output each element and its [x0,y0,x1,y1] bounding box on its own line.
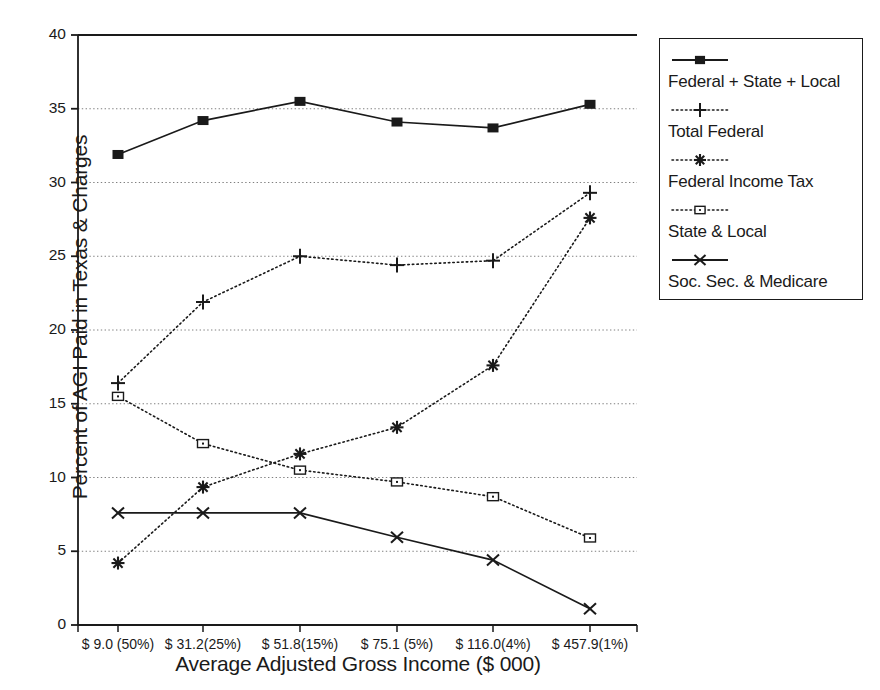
y-tick-label: 10 [22,468,66,486]
y-tick-label: 0 [22,615,66,633]
legend-entry-2[interactable]: Federal Income Tax [668,149,858,193]
legend-marker-open-square-icon [668,199,858,221]
x-tick-label: $ 51.8(15%) [262,636,338,652]
x-axis-title: Average Adjusted Gross Income ($ 000) [78,652,638,676]
x-tick-label: $ 116.0(4%) [455,636,530,652]
legend-label: Soc. Sec. & Medicare [668,271,858,293]
x-tick-label: $ 9.0 (50%) [82,636,154,652]
marker-open-square [585,534,596,542]
marker-open-square [695,206,705,213]
marker-open-square [488,493,499,501]
axis-ticks [71,35,637,632]
chart-figure: 0510152025303540 $ 9.0 (50%)$ 31.2(25%)$… [0,0,880,690]
marker-asterisk [694,154,706,166]
x-tick-label: $ 457.9(1%) [552,636,628,652]
series-1 [111,185,597,390]
marker-filled-square [113,150,124,159]
x-tick-label: $ 31.2(25%) [165,636,241,652]
y-axis-title: Percent of AGI Paid in Texas & Charges [68,37,92,597]
marker-plus [196,294,210,309]
y-tick-label: 40 [22,25,66,43]
marker-plus [293,249,307,264]
legend-marker-filled-square-icon [668,49,858,71]
marker-open-square [392,478,403,486]
marker-plus [111,376,125,391]
data-series-layer [111,97,597,614]
marker-plus [486,253,500,268]
legend-label: Federal + State + Local [668,71,858,93]
legend-entry-3[interactable]: State & Local [668,199,858,243]
y-tick-label: 30 [22,173,66,191]
marker-filled-square [695,56,705,64]
marker-asterisk [294,447,307,460]
legend-label: State & Local [668,221,858,243]
y-tick-label: 5 [22,541,66,559]
marker-cross-x [391,532,403,543]
marker-filled-square [488,123,499,132]
marker-filled-square [198,116,209,125]
marker-asterisk [197,481,210,494]
gridlines-group [78,109,637,552]
marker-asterisk [391,421,404,434]
series-4 [112,507,596,614]
legend-label: Federal Income Tax [668,171,858,193]
marker-filled-square [295,97,306,106]
series-0 [113,97,596,159]
y-tick-label: 25 [22,246,66,264]
marker-open-square [198,440,209,448]
marker-asterisk [584,211,597,224]
marker-asterisk [112,557,125,570]
legend-marker-plus-icon [668,99,858,121]
marker-cross-x [584,603,596,614]
marker-plus [694,103,707,117]
marker-open-square [113,392,124,400]
x-tick-label: $ 75.1 (5%) [361,636,433,652]
series-2 [112,211,597,569]
chart-legend: Federal + State + LocalTotal FederalFede… [659,38,863,300]
marker-filled-square [585,100,596,109]
marker-filled-square [392,118,403,127]
y-tick-label: 15 [22,394,66,412]
marker-open-square [295,466,306,474]
marker-plus [390,258,404,273]
legend-marker-asterisk-icon [668,149,858,171]
legend-label: Total Federal [668,121,858,143]
marker-plus [583,185,597,200]
legend-entry-1[interactable]: Total Federal [668,99,858,143]
y-tick-label: 35 [22,99,66,117]
legend-entry-4[interactable]: Soc. Sec. & Medicare [668,249,858,293]
marker-asterisk [487,359,500,372]
legend-entry-0[interactable]: Federal + State + Local [668,49,858,93]
series-3 [113,392,596,542]
legend-marker-cross-x-icon [668,249,858,271]
y-tick-label: 20 [22,320,66,338]
marker-cross-x [487,555,499,566]
